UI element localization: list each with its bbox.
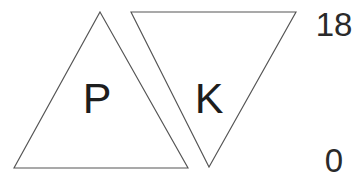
scale-top-label: 18 bbox=[316, 6, 353, 43]
figure-canvas: P K 18 0 bbox=[0, 0, 362, 181]
triangle-k-label: K bbox=[195, 74, 224, 122]
diagram-svg: P K 18 0 bbox=[0, 0, 362, 181]
triangle-p-label: P bbox=[83, 74, 112, 122]
scale-bottom-label: 0 bbox=[325, 142, 343, 179]
